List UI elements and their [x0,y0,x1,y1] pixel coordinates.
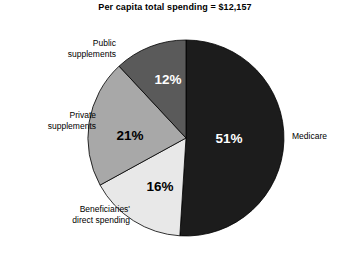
pie-value-label-beneficiaries: 16% [146,179,173,194]
pie-value-label-private: 21% [116,128,143,143]
pie-callout-beneficiaries-direct-spending: Beneficiaries' direct spending [10,204,130,226]
pie-chart-figure: Per capita total spending = $12,157 51% … [0,0,350,253]
pie-value-label-public: 12% [154,72,181,87]
pie-callout-public-supplements: Public supplements [38,38,116,60]
pie-callout-private-supplements: Private supplements [18,110,96,132]
pie-value-label-medicare: 51% [215,131,242,146]
pie-callout-medicare: Medicare [292,131,348,142]
